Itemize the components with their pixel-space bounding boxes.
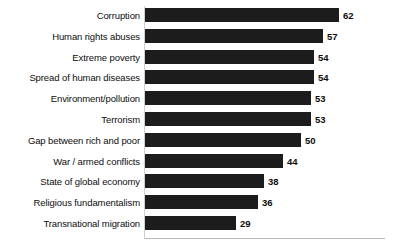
chart-row: Gap between rich and poor 50 [0,133,393,147]
bar [145,8,339,22]
category-label: Spread of human diseases [0,72,140,83]
bar [145,216,236,230]
value-label: 62 [343,10,354,21]
bar [145,154,283,168]
category-label: Religious fundamentalism [0,197,140,208]
chart-row: Religious fundamentalism 36 [0,195,393,209]
bar [145,50,314,64]
value-label: 53 [315,93,326,104]
chart-row: Corruption 62 [0,8,393,22]
chart-row: War / armed conflicts 44 [0,154,393,168]
value-label: 36 [262,197,273,208]
chart-row: State of global economy 38 [0,174,393,188]
bar [145,112,311,126]
chart-row: Terrorism 53 [0,112,393,126]
x-axis-line [145,238,385,239]
value-label: 38 [268,176,279,187]
value-label: 29 [240,218,251,229]
category-label: Human rights abuses [0,30,140,41]
category-label: Transnational migration [0,218,140,229]
category-label: Extreme poverty [0,51,140,62]
category-label: War / armed conflicts [0,155,140,166]
chart-row: Human rights abuses 57 [0,29,393,43]
value-label: 53 [315,114,326,125]
category-label: State of global economy [0,176,140,187]
bar [145,70,314,84]
chart-row: Environment/pollution 53 [0,91,393,105]
bar [145,195,258,209]
category-label: Environment/pollution [0,93,140,104]
bar [145,29,323,43]
horizontal-bar-chart: Corruption 62 Human rights abuses 57 Ext… [0,0,393,250]
value-label: 50 [305,134,316,145]
chart-row: Spread of human diseases 54 [0,70,393,84]
chart-row: Extreme poverty 54 [0,50,393,64]
category-label: Corruption [0,10,140,21]
bar [145,91,311,105]
category-label: Terrorism [0,114,140,125]
category-label: Gap between rich and poor [0,134,140,145]
value-label: 54 [318,72,329,83]
chart-row: Transnational migration 29 [0,216,393,230]
value-label: 44 [287,155,298,166]
value-label: 54 [318,51,329,62]
bar [145,174,264,188]
bar [145,133,301,147]
value-label: 57 [327,30,338,41]
